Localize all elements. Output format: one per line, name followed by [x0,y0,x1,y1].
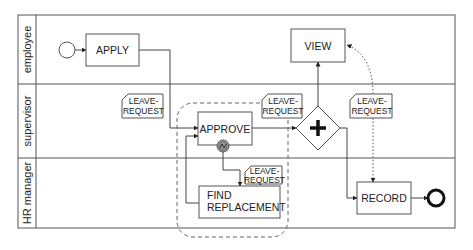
flow-gateway-to-record[interactable] [340,128,357,198]
association-data-to-view[interactable] [347,45,373,94]
data-object-label: REQUEST [123,106,164,116]
task-record[interactable]: RECORD [357,182,411,214]
data-object-leave-request[interactable]: LEAVE-REQUEST [122,94,164,118]
data-object-label: REQUEST [244,175,285,185]
lane-label-supervisor: supervisor [21,95,33,146]
data-object-leave-request[interactable]: LEAVE-REQUEST [350,94,393,118]
data-object-leave-request[interactable]: LEAVE-REQUEST [244,166,285,185]
nodes: APPLYAPPROVEFINDREPLACEMENTVIEWRECORDLEA… [59,29,444,218]
end-event-icon[interactable] [428,190,444,206]
lane-label-employee: employee [21,26,33,74]
task-label: VIEW [305,40,332,52]
task-apply[interactable]: APPLY [86,34,139,66]
flow-find-to-approve[interactable] [186,136,199,203]
data-object-label: REQUEST [262,106,303,116]
task-label: RECORD [361,192,407,204]
task-view[interactable]: VIEW [291,29,345,62]
flow-boundary-to-find[interactable] [223,152,240,186]
start-event-icon[interactable] [59,42,75,58]
data-object-label: LEAVE- [357,96,387,106]
task-label: APPLY [96,44,129,56]
data-object-label: LEAVE- [268,96,298,106]
bpmn-diagram: employeesupervisorHR manager APPLYAPPROV… [0,0,473,250]
task-find_replacement[interactable]: FINDREPLACEMENT [199,186,286,218]
task-label: APPROVE [200,123,251,135]
data-object-label: REQUEST [351,106,392,116]
error-boundary-event-icon[interactable] [217,140,229,152]
task-label: REPLACEMENT [207,201,286,213]
task-label: FIND [207,189,232,201]
data-object-label: LEAVE- [129,96,159,106]
lane-label-hr: HR manager [21,161,33,224]
data-object-leave-request[interactable]: LEAVE-REQUEST [262,94,304,118]
